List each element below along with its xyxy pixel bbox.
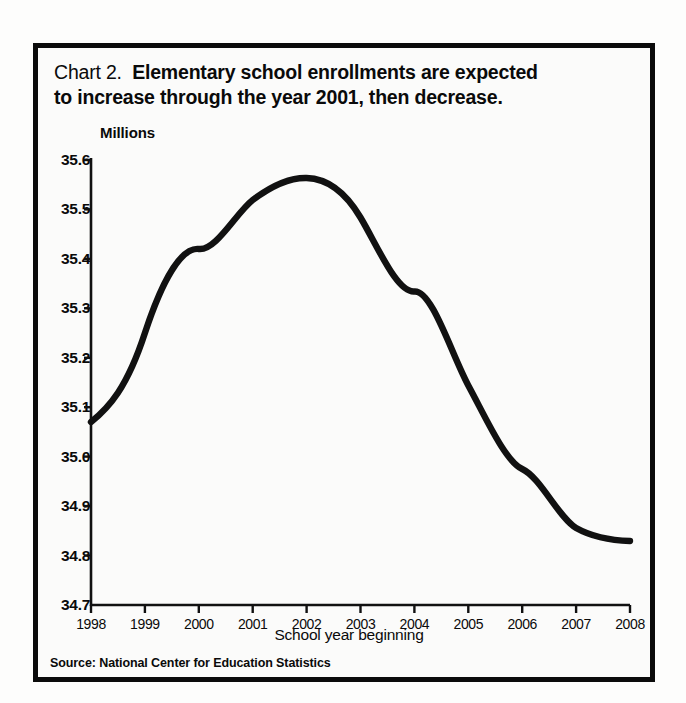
chart-svg-canvas <box>38 48 660 687</box>
chart-figure-frame: Chart 2. Elementary school enrollments a… <box>33 43 655 682</box>
enrollment-line-series <box>91 178 630 541</box>
source-note: Source: National Center for Education St… <box>50 656 331 670</box>
page-background: Chart 2. Elementary school enrollments a… <box>0 0 686 703</box>
plot-area: 35.6 35.5 35.4 35.3 35.2 35.1 35.0 34.9 … <box>38 48 660 687</box>
x-axis-title: School year beginning <box>38 626 660 644</box>
chart-figure-inner: Chart 2. Elementary school enrollments a… <box>38 48 650 677</box>
